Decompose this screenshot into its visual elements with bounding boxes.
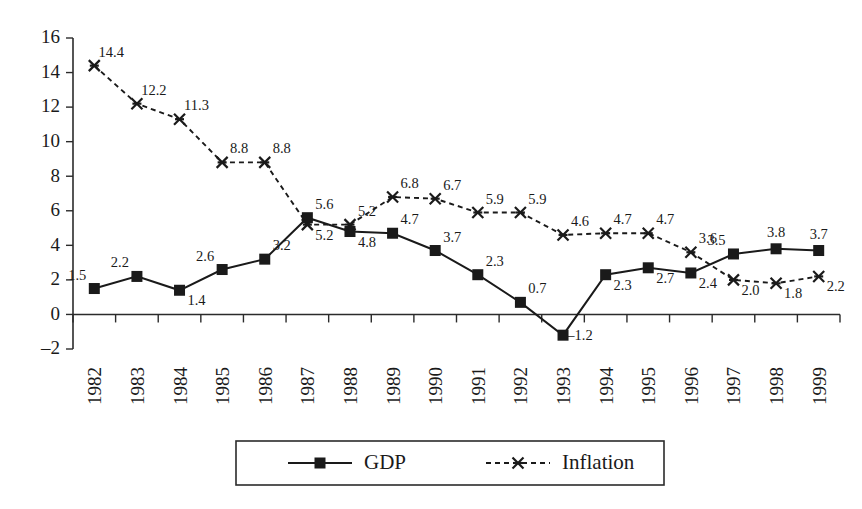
gdp-data-point [771, 243, 782, 254]
inflation-data-point [813, 271, 824, 282]
x-axis-tick-label: 1995 [638, 367, 659, 405]
gdp-point-label: 2.2 [111, 254, 129, 270]
inflation-point-label: 12.2 [141, 82, 166, 98]
y-axis-tick-label: 10 [41, 130, 60, 151]
gdp-point-label: 2.7 [656, 270, 674, 286]
x-axis-tick-label: 1998 [766, 367, 787, 405]
inflation-data-point [728, 274, 739, 285]
x-axis-tick-label: 1983 [127, 367, 148, 405]
y-axis-tick-label: 0 [51, 303, 61, 324]
x-axis: 1982198319841985198619871988198919901991… [73, 314, 840, 405]
y-axis-tick-label: 4 [51, 234, 61, 255]
gdp-data-point [813, 245, 824, 256]
gdp-data-point [131, 271, 142, 282]
inflation-data-point [217, 157, 228, 168]
x-axis-tick-label: 1996 [681, 367, 702, 405]
gdp-data-point [685, 267, 696, 278]
x-axis-tick-label: 1987 [297, 367, 318, 405]
inflation-point-label: 14.4 [99, 44, 125, 60]
inflation-point-label: 5.9 [486, 191, 504, 207]
gdp-point-label: 2.3 [614, 277, 632, 293]
inflation-point-label: 4.7 [656, 211, 674, 227]
gdp-point-label: 4.7 [401, 211, 419, 227]
y-axis-tick-label: 16 [41, 26, 60, 47]
inflation-data-point [131, 98, 142, 109]
x-axis-tick-label: 1988 [340, 367, 361, 405]
inflation-point-label: 2.0 [741, 282, 759, 298]
gdp-data-point [387, 228, 398, 239]
inflation-point-label: 4.7 [614, 211, 632, 227]
x-axis-tick-label: 1997 [723, 367, 744, 405]
chart-legend: GDPInflation [236, 441, 664, 485]
inflation-data-point [387, 191, 398, 202]
inflation-data-point [174, 114, 185, 125]
gdp-data-point [315, 458, 326, 469]
x-axis-tick-label: 1986 [255, 367, 276, 405]
x-axis-tick-label: 1991 [468, 367, 489, 405]
gdp-data-point [259, 254, 270, 265]
inflation-point-label: 4.6 [571, 213, 589, 229]
gdp-data-point [89, 283, 100, 294]
inflation-point-label: 11.3 [184, 97, 209, 113]
inflation-data-point [558, 229, 569, 240]
inflation-data-point [771, 278, 782, 289]
gdp-point-label: 3.7 [443, 229, 461, 245]
gdp-point-label: 1.4 [187, 292, 206, 308]
y-axis-tick-label: 12 [41, 95, 60, 116]
gdp-point-label: 4.8 [358, 234, 376, 250]
inflation-point-label: 3.6 [699, 230, 717, 246]
x-axis-tick-label: 1989 [383, 367, 404, 405]
inflation-point-label: 8.8 [230, 140, 248, 156]
line-chart: –20246810121416 198219831984198519861987… [0, 0, 862, 509]
inflation-data-point [89, 60, 100, 71]
gdp-data-point [515, 297, 526, 308]
inflation-data-point [430, 193, 441, 204]
inflation-point-label: 6.8 [401, 175, 419, 191]
inflation-point-label: 5.2 [358, 203, 376, 219]
chart-container: –20246810121416 198219831984198519861987… [0, 0, 862, 509]
gdp-data-point [643, 262, 654, 273]
x-axis-tick-label: 1984 [170, 367, 191, 406]
data-point-labels: 1.52.21.42.63.25.64.84.73.72.30.7–1.22.3… [68, 44, 845, 344]
x-axis-tick-label: 1994 [596, 367, 617, 406]
inflation-data-point [515, 207, 526, 218]
gdp-point-label: 2.4 [699, 275, 718, 291]
x-axis-tick-label: 1990 [425, 367, 446, 405]
y-axis: –20246810121416 [40, 26, 73, 358]
gdp-point-label: –1.2 [566, 327, 592, 343]
legend-label: GDP [364, 450, 406, 474]
x-axis-tick-label: 1985 [212, 367, 233, 405]
legend-label: Inflation [562, 450, 635, 474]
y-axis-tick-label: 2 [51, 268, 61, 289]
gdp-point-label: 3.2 [273, 237, 291, 253]
inflation-data-point [259, 157, 270, 168]
inflation-data-point [685, 247, 696, 258]
y-axis-tick-label: 6 [51, 199, 61, 220]
gdp-point-label: 5.6 [315, 196, 333, 212]
gdp-point-label: 1.5 [68, 267, 86, 283]
gdp-data-point [174, 285, 185, 296]
inflation-point-label: 6.7 [443, 177, 461, 193]
gdp-point-label: 2.3 [486, 253, 504, 269]
gdp-data-point [430, 245, 441, 256]
x-axis-tick-label: 1999 [809, 367, 830, 405]
inflation-point-label: 2.2 [827, 278, 845, 294]
y-axis-tick-label: 8 [51, 165, 61, 186]
inflation-point-label: 8.8 [273, 140, 291, 156]
inflation-point-label: 5.2 [315, 227, 333, 243]
inflation-data-point [472, 207, 483, 218]
inflation-point-label: 1.8 [784, 285, 802, 301]
y-axis-tick-label: –2 [40, 337, 60, 358]
gdp-data-point [472, 269, 483, 280]
gdp-point-label: 3.7 [810, 226, 828, 242]
x-axis-tick-label: 1982 [84, 367, 105, 405]
gdp-point-label: 0.7 [528, 280, 546, 296]
gdp-data-point [728, 248, 739, 259]
y-axis-tick-label: 14 [41, 61, 61, 82]
inflation-data-point [600, 228, 611, 239]
gdp-point-label: 2.6 [196, 248, 214, 264]
gdp-data-point [600, 269, 611, 280]
gdp-point-label: 3.8 [767, 224, 785, 240]
inflation-point-label: 5.9 [528, 191, 546, 207]
inflation-data-point [643, 228, 654, 239]
